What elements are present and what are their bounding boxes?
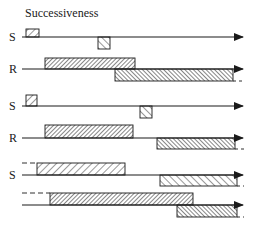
timeline-row: R (9, 125, 244, 149)
time-bar (50, 193, 193, 205)
time-bar (157, 138, 235, 149)
row-label: R (9, 131, 17, 145)
time-bar (115, 69, 233, 81)
time-bar (140, 106, 152, 118)
successiveness-diagram: Successiveness SRSRS (0, 0, 260, 235)
timeline-row: S (9, 29, 243, 49)
timeline-rows: SRSRS (9, 29, 244, 217)
group-3: S (9, 163, 244, 217)
time-bar (26, 95, 37, 106)
timeline-row (22, 193, 244, 217)
diagram-title: Successiveness (25, 6, 99, 20)
row-label: S (9, 30, 16, 44)
time-bar (45, 58, 135, 69)
timeline-row: S (9, 163, 244, 186)
time-bar (98, 37, 110, 49)
timeline-row: R (9, 58, 244, 81)
time-bar (160, 175, 237, 186)
timeline-row: S (9, 95, 243, 118)
time-bar (177, 205, 237, 217)
row-label: S (9, 168, 16, 182)
group-2: SR (9, 95, 244, 149)
time-bar (26, 29, 39, 37)
time-bar (45, 125, 133, 138)
row-label: R (9, 62, 17, 76)
time-bar (37, 163, 125, 175)
row-label: S (9, 99, 16, 113)
group-1: SR (9, 29, 244, 81)
